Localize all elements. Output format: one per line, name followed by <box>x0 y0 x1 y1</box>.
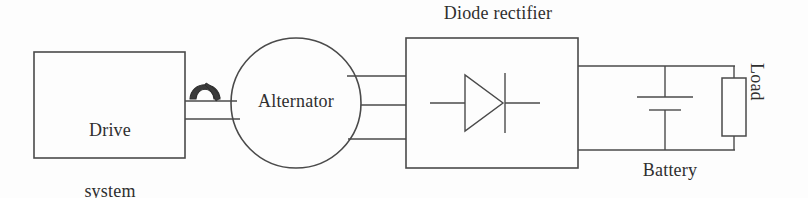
block-diagram-canvas: Drive system Alternator Diode rectifier … <box>0 0 808 198</box>
diode-rectifier-label: Diode rectifier <box>398 3 598 23</box>
drive-system-label: Drive system <box>40 80 180 198</box>
alternator-label: Alternator <box>232 91 360 111</box>
battery-symbol-icon <box>637 66 693 150</box>
battery-label: Battery <box>600 160 740 180</box>
shaft-coupling-icon <box>190 83 220 101</box>
load-resistor-icon <box>722 66 746 150</box>
load-label: Load <box>747 63 767 143</box>
drive-system-label-line1: Drive <box>40 120 180 140</box>
drive-system-label-line2: system <box>40 181 180 198</box>
diode-symbol-icon <box>430 73 540 133</box>
